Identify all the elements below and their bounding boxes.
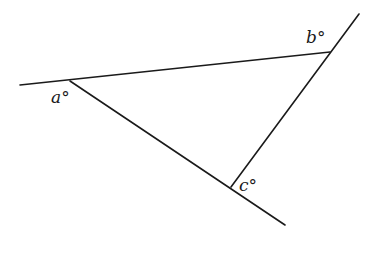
triangle-diagram: a° b° c°: [0, 0, 371, 255]
right-line: [231, 14, 359, 187]
angle-c-label: c°: [239, 175, 257, 195]
diagonal-line: [70, 81, 285, 225]
angle-b-label: b°: [306, 27, 325, 47]
angle-a-label: a°: [51, 87, 70, 107]
top-line: [20, 52, 330, 85]
